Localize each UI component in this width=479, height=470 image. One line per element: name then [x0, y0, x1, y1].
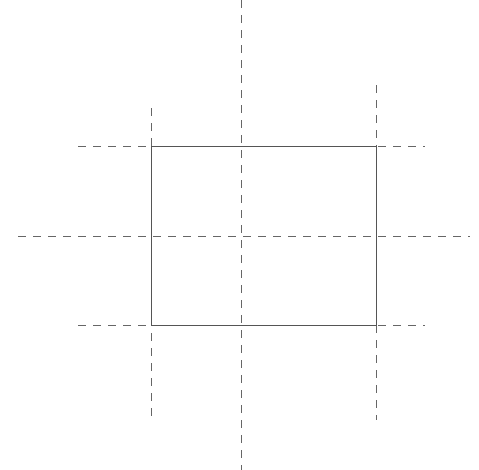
alignment-guides-diagram [0, 0, 479, 470]
dashed-guide-lines [18, 0, 470, 470]
